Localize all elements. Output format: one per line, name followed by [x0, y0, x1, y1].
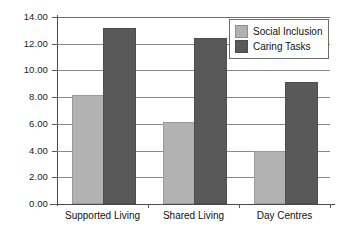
x-axis-tick [239, 204, 240, 208]
x-axis-category-label: Shared Living [148, 210, 239, 221]
x-axis-tick [148, 204, 149, 208]
y-axis-tick [52, 97, 57, 98]
y-axis-tick [52, 70, 57, 71]
y-axis-tick [52, 124, 57, 125]
legend-label-social-inclusion: Social Inclusion [253, 26, 322, 37]
legend-item: Caring Tasks [235, 39, 322, 54]
bar-shared-living-caring-tasks [194, 38, 227, 204]
bar-chart-figure: 0.002.004.006.008.0010.0012.0014.00 Supp… [0, 0, 347, 241]
gridline [57, 17, 330, 18]
y-axis-tick-label: 14.00 [8, 11, 48, 22]
y-axis-tick-label: 8.00 [8, 91, 48, 102]
bar-shared-living-social-inclusion [163, 122, 196, 204]
y-axis-tick [52, 177, 57, 178]
x-axis-category-label: Supported Living [57, 210, 148, 221]
bar-supported-living-caring-tasks [103, 28, 136, 204]
legend-swatch-caring-tasks [235, 40, 248, 53]
y-axis-tick-label: 4.00 [8, 145, 48, 156]
y-axis-tick-label: 12.00 [8, 38, 48, 49]
bar-day-centres-social-inclusion [254, 151, 287, 204]
y-axis-tick [52, 17, 57, 18]
legend-item: Social Inclusion [235, 24, 322, 39]
bar-day-centres-caring-tasks [285, 82, 318, 204]
legend-swatch-social-inclusion [235, 25, 248, 38]
y-axis-tick-label: 10.00 [8, 64, 48, 75]
y-axis-tick [52, 204, 57, 205]
chart-legend: Social Inclusion Caring Tasks [229, 19, 329, 59]
y-axis-tick-label: 2.00 [8, 171, 48, 182]
bar-supported-living-social-inclusion [72, 95, 105, 204]
y-axis-tick-label: 6.00 [8, 118, 48, 129]
y-axis-tick [52, 44, 57, 45]
x-axis-tick [330, 204, 331, 208]
legend-label-caring-tasks: Caring Tasks [253, 41, 311, 52]
x-axis-category-label: Day Centres [239, 210, 330, 221]
y-axis-tick-label: 0.00 [8, 198, 48, 209]
x-axis-line [50, 204, 335, 205]
y-axis-tick [52, 151, 57, 152]
